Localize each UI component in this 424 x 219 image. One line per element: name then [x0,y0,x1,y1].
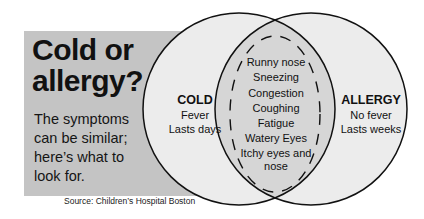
shared-item: Runny nose [238,55,314,70]
cold-label: COLD Fever Lasts days [160,93,230,136]
cold-heading: COLD [160,93,230,108]
cold-item: Fever [160,108,230,122]
shared-item: nose [238,160,314,172]
allergy-item: No fever [336,108,406,122]
allergy-item: Lasts weeks [336,122,406,136]
shared-item: Watery Eyes [238,131,314,146]
source-credit: Source: Children’s Hospital Boston [64,196,195,206]
shared-item: Itchy eyes and [238,147,314,160]
allergy-heading: ALLERGY [336,93,406,108]
shared-item: Congestion [238,86,314,101]
shared-item: Fatigue [238,116,314,131]
allergy-label: ALLERGY No fever Lasts weeks [336,93,406,136]
shared-item: Coughing [238,101,314,116]
shared-item: Sneezing [238,70,314,85]
shared-symptoms-list: Runny nose Sneezing Congestion Coughing … [238,55,314,172]
cold-item: Lasts days [160,122,230,136]
